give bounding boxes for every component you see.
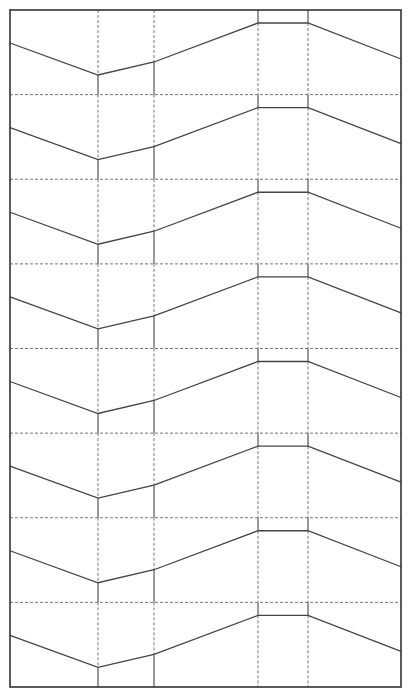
background — [0, 0, 408, 691]
band-pattern-diagram — [0, 0, 408, 691]
diagram-canvas — [0, 0, 408, 691]
